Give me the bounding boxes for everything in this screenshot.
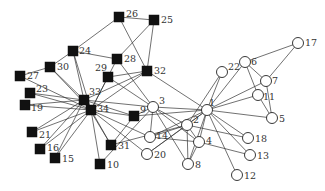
node-label: 27	[27, 70, 39, 81]
node-label: 19	[31, 102, 43, 113]
square-node-marker	[35, 144, 45, 154]
node-label: 14	[156, 130, 168, 141]
circle-node-marker	[183, 159, 194, 170]
node-29: 29	[95, 62, 113, 82]
square-node-marker	[45, 62, 55, 72]
edge-1-13	[207, 110, 250, 155]
node-label: 20	[154, 149, 166, 160]
node-label: 31	[118, 140, 130, 151]
node-21: 21	[27, 127, 51, 140]
node-label: 33	[89, 86, 101, 97]
node-label: 7	[272, 75, 278, 86]
node-15: 15	[50, 153, 74, 164]
circle-node-marker	[240, 57, 251, 68]
edge-15-34	[55, 110, 91, 158]
circle-node-marker	[267, 113, 278, 124]
square-node-marker	[20, 100, 30, 110]
node-19: 19	[20, 100, 43, 113]
node-layer: 1234567891011121314151617181920212223242…	[15, 8, 317, 181]
square-node-marker	[95, 159, 105, 169]
network-graph: 1234567891011121314151617181920212223242…	[0, 0, 325, 191]
node-8: 8	[183, 159, 202, 171]
circle-node-marker	[142, 149, 153, 160]
square-node-marker	[68, 46, 78, 56]
node-24: 24	[68, 45, 91, 56]
node-label: 2	[193, 114, 199, 125]
node-4: 4	[194, 135, 213, 148]
node-14: 14	[145, 130, 169, 143]
node-label: 32	[154, 65, 166, 76]
edge-25-32	[147, 20, 154, 71]
circle-node-marker	[261, 76, 272, 87]
node-label: 22	[228, 61, 240, 72]
node-30: 30	[45, 61, 69, 72]
node-34: 34	[86, 103, 109, 115]
circle-node-marker	[243, 133, 254, 144]
circle-node-marker	[253, 90, 264, 101]
node-13: 13	[245, 150, 270, 162]
node-label: 6	[251, 56, 257, 67]
node-label: 1	[209, 97, 215, 108]
node-22: 22	[217, 61, 241, 78]
node-2: 2	[182, 114, 200, 131]
circle-node-marker	[148, 102, 159, 113]
node-11: 11	[253, 90, 276, 103]
node-26: 26	[114, 8, 138, 22]
node-label: 26	[126, 8, 138, 19]
node-label: 4	[206, 135, 212, 146]
circle-node-marker	[293, 38, 304, 49]
node-31: 31	[106, 140, 130, 151]
node-label: 15	[62, 153, 74, 164]
node-label: 9	[140, 104, 146, 115]
node-32: 32	[142, 65, 166, 76]
node-23: 23	[25, 83, 48, 98]
node-label: 17	[305, 37, 317, 48]
node-6: 6	[240, 56, 258, 68]
node-label: 21	[39, 129, 51, 140]
node-label: 10	[107, 159, 119, 170]
node-3: 3	[148, 95, 166, 113]
node-label: 23	[36, 83, 48, 94]
node-label: 16	[47, 142, 59, 153]
node-17: 17	[293, 37, 318, 49]
square-node-marker	[106, 140, 116, 150]
circle-node-marker	[217, 67, 228, 78]
node-9: 9	[129, 104, 146, 121]
node-label: 30	[57, 61, 69, 72]
node-20: 20	[142, 149, 167, 161]
node-7: 7	[261, 75, 279, 87]
square-node-marker	[114, 12, 124, 22]
node-label: 3	[159, 95, 165, 106]
circle-node-marker	[145, 132, 156, 143]
square-node-marker	[79, 95, 89, 105]
node-28: 28	[112, 53, 136, 64]
node-18: 18	[243, 133, 268, 145]
node-label: 5	[279, 113, 285, 124]
node-label: 25	[161, 14, 173, 25]
circle-node-marker	[194, 137, 205, 148]
square-node-marker	[27, 127, 37, 137]
square-node-marker	[50, 153, 60, 163]
node-27: 27	[15, 70, 39, 81]
square-node-marker	[129, 111, 139, 121]
node-5: 5	[267, 113, 286, 125]
square-node-marker	[86, 105, 96, 115]
square-node-marker	[25, 88, 35, 98]
node-label: 34	[97, 103, 109, 114]
square-node-marker	[149, 15, 159, 25]
node-label: 24	[79, 45, 91, 56]
node-12: 12	[232, 170, 257, 182]
node-label: 13	[257, 150, 269, 161]
node-10: 10	[95, 159, 119, 170]
node-25: 25	[149, 14, 173, 25]
node-label: 8	[195, 159, 201, 170]
circle-node-marker	[232, 170, 243, 181]
node-label: 11	[263, 91, 275, 102]
square-node-marker	[112, 54, 122, 64]
square-node-marker	[103, 72, 113, 82]
square-node-marker	[142, 66, 152, 76]
node-label: 29	[95, 62, 107, 73]
node-label: 18	[255, 133, 267, 144]
edge-3-29	[108, 77, 153, 107]
circle-node-marker	[245, 150, 256, 161]
